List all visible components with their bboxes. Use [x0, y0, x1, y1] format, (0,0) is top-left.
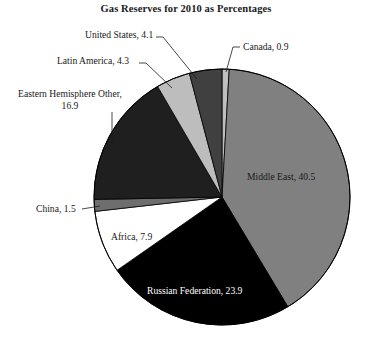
slice-label-canada: Canada, 0.9 [243, 41, 289, 53]
leader-line-canada [226, 47, 240, 72]
slice-label-africa: Africa, 7.9 [111, 231, 152, 243]
pie-chart-figure: Gas Reserves for 2010 as Percentages [0, 0, 372, 350]
slice-label-eastern-hemisphere-other-line1: Eastern Hemisphere Other, [18, 88, 122, 99]
slice-label-united-states: United States, 4.1 [85, 29, 153, 41]
slice-label-latin-america: Latin America, 4.3 [57, 55, 129, 67]
slice-label-eastern-hemisphere-other-line2: 16.9 [62, 100, 79, 111]
pie-chart-graphic [0, 0, 372, 350]
slice-label-russian-federation: Russian Federation, 23.9 [147, 285, 242, 297]
slice-label-middle-east: Middle East, 40.5 [247, 171, 315, 183]
slice-label-eastern-hemisphere-other: Eastern Hemisphere Other, 16.9 [7, 88, 133, 111]
slice-label-china: China, 1.5 [36, 203, 76, 215]
